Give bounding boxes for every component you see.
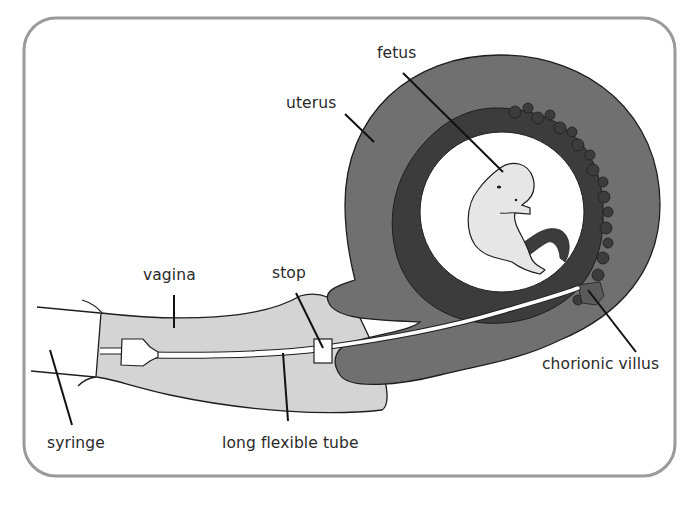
label-stop: stop	[272, 266, 306, 282]
label-long-flexible-tube: long flexible tube	[222, 436, 359, 452]
stop	[314, 339, 332, 363]
label-vagina: vagina	[143, 268, 196, 284]
label-fetus: fetus	[377, 46, 416, 62]
label-syringe: syringe	[47, 436, 105, 452]
cvs-diagram	[0, 0, 693, 506]
label-chorionic-villus: chorionic villus	[542, 357, 659, 373]
label-uterus: uterus	[286, 96, 336, 112]
